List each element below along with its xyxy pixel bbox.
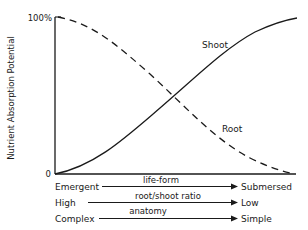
gradient-life-form: Emergent life-form Submersed: [55, 175, 292, 192]
gradient-from-high: High: [55, 198, 76, 208]
root-curve: [58, 17, 294, 174]
root-label: Root: [222, 124, 243, 134]
y-tick-min: 0: [46, 169, 51, 179]
gradient-to-low: Low: [241, 198, 259, 208]
gradient-label-anatomy: anatomy: [129, 206, 167, 216]
gradient-to-submersed: Submersed: [241, 182, 292, 192]
arrowhead-icon: [231, 200, 238, 206]
arrowhead-icon: [231, 184, 238, 190]
axes: [55, 17, 296, 174]
gradient-from-emergent: Emergent: [55, 182, 99, 192]
gradient-label-root-shoot-ratio: root/shoot ratio: [135, 191, 201, 201]
shoot-curve: [55, 18, 297, 174]
gradient-anatomy: Complex anatomy Simple: [55, 206, 272, 224]
gradient-from-complex: Complex: [55, 214, 95, 224]
gradient-to-simple: Simple: [241, 214, 272, 224]
gradient-label-life-form: life-form: [143, 175, 179, 185]
absorption-diagram: Nutrient Absorption Potential 100% 0 Sho…: [0, 0, 308, 230]
shoot-label: Shoot: [202, 40, 228, 50]
y-tick-max: 100%: [28, 13, 52, 23]
y-axis-title: Nutrient Absorption Potential: [6, 36, 16, 160]
arrowhead-icon: [231, 216, 238, 222]
